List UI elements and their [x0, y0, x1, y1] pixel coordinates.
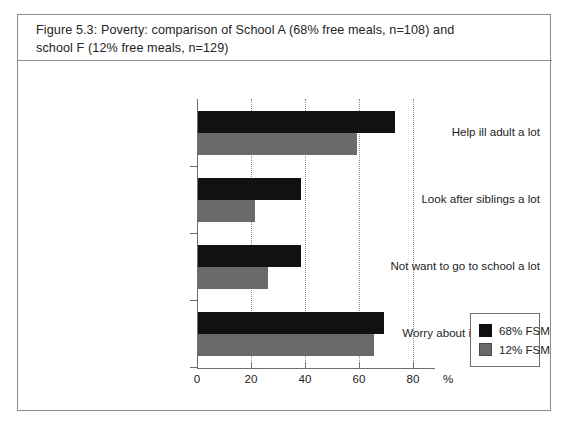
x-axis-tick-label: 60 [353, 372, 366, 385]
legend-swatch-12-fsm [479, 343, 492, 356]
chart-legend: 68% FSM 12% FSM [470, 313, 540, 367]
x-axis-tick [305, 362, 306, 369]
y-axis-tick [190, 367, 197, 368]
legend-entry: 12% FSM [479, 340, 531, 359]
bar-0-1 [198, 178, 301, 200]
x-axis-tick [359, 362, 360, 369]
x-axis-tick-label: 40 [299, 372, 312, 385]
bar-0-2 [198, 245, 301, 267]
figure-frame: Figure 5.3: Poverty: comparison of Schoo… [17, 14, 551, 411]
category-label: Not want to go to school a lot [380, 259, 552, 272]
legend-swatch-68-fsm [479, 324, 492, 337]
category-label: Help ill adult a lot [380, 125, 552, 138]
bar-1-3 [198, 334, 374, 356]
x-axis-tick-label: 0 [194, 372, 200, 385]
y-axis-tick [190, 233, 197, 234]
x-axis-tick-label: 20 [245, 372, 258, 385]
x-axis-tick-label: 80 [407, 372, 420, 385]
x-axis-tick [413, 362, 414, 369]
figure-caption-line-1: Figure 5.3: Poverty: comparison of Schoo… [36, 22, 538, 40]
legend-entry: 68% FSM [479, 321, 531, 340]
bar-1-0 [198, 133, 357, 155]
bar-1-1 [198, 200, 255, 222]
bar-0-3 [198, 312, 384, 334]
y-axis-tick [190, 166, 197, 167]
chart-plot-region: Help ill adult a lotLook after siblings … [18, 61, 552, 411]
bar-0-0 [198, 111, 395, 133]
x-axis-tick [251, 362, 252, 369]
x-axis-unit-label: % [443, 372, 453, 385]
category-label: Look after siblings a lot [380, 192, 552, 205]
figure-caption: Figure 5.3: Poverty: comparison of Schoo… [18, 15, 552, 61]
figure-caption-line-2: school F (12% free meals, n=129) [36, 40, 538, 58]
legend-label-68-fsm: 68% FSM [499, 324, 550, 337]
legend-label-12-fsm: 12% FSM [499, 343, 550, 356]
x-axis-tick [197, 362, 198, 369]
y-axis-tick [190, 300, 197, 301]
x-axis-line [197, 368, 435, 369]
bar-1-2 [198, 267, 268, 289]
